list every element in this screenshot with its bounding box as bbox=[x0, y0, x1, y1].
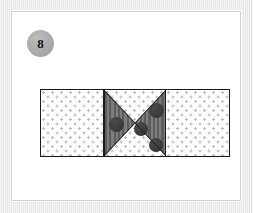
panel-right bbox=[166, 89, 230, 157]
panel-middle bbox=[104, 89, 167, 157]
page-background: 8 bbox=[0, 0, 253, 213]
step-number-badge: 8 bbox=[27, 30, 54, 57]
panel-left bbox=[40, 89, 104, 157]
polka-dot-fill-right bbox=[166, 90, 229, 156]
step-number-label: 8 bbox=[37, 37, 44, 50]
polka-dot-fill-left bbox=[41, 90, 103, 156]
quilt-block-figure bbox=[40, 89, 230, 157]
illustration-card: 8 bbox=[11, 11, 241, 201]
